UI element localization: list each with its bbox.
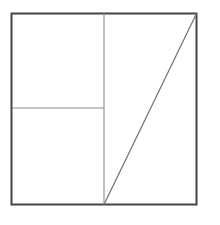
geometry-diagram — [0, 0, 220, 225]
figure-canvas — [0, 0, 220, 225]
